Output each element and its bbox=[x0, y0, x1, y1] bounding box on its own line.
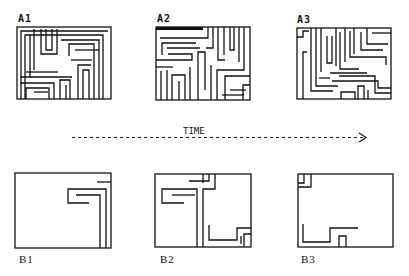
maze-b3 bbox=[298, 174, 393, 247]
maze-diagram bbox=[0, 0, 409, 276]
maze-a3 bbox=[297, 28, 391, 99]
maze-a1 bbox=[17, 27, 111, 99]
label-b1: B1 bbox=[19, 253, 34, 265]
label-b2: B2 bbox=[160, 253, 175, 265]
label-b3: B3 bbox=[301, 253, 316, 265]
maze-a2 bbox=[156, 27, 250, 100]
maze-b2 bbox=[155, 174, 251, 247]
time-label: TIME bbox=[183, 126, 205, 136]
maze-b1 bbox=[15, 173, 111, 248]
